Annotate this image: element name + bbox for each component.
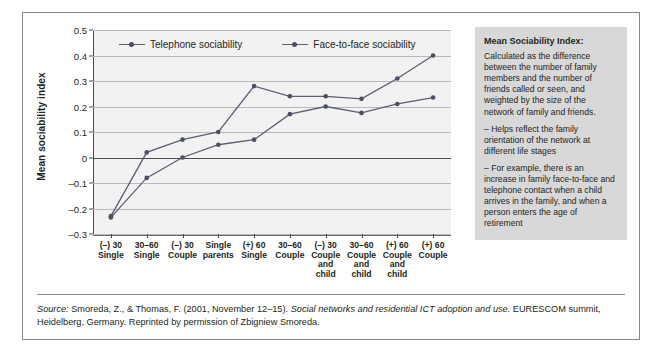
data-point[interactable] [144,176,149,181]
x-tick-label: 30–60 Single [134,241,160,260]
data-point[interactable] [216,142,221,147]
x-tick-label: (+) 60 Couple [419,241,448,260]
data-point[interactable] [252,137,257,142]
x-tick-mark [218,234,219,238]
y-tick-label: –0.2 [69,203,88,214]
side-note-paragraph: Calculated as the difference between the… [484,51,618,118]
data-point[interactable] [109,214,114,219]
side-note-paragraph: – For example, there is an increase in f… [484,163,618,230]
x-tick-mark [326,234,327,238]
y-tick-label: 0.1 [74,127,87,138]
x-tick-mark [111,234,112,238]
plot-area: 0.50.40.30.20.10–0.1–0.2–0.3 (–) 30 Sing… [93,30,451,234]
legend-label: Face-to-face sociability [313,39,415,50]
y-tick-label: 0 [82,152,87,163]
source-label: Source: [37,304,69,314]
x-tick-label: (–) 30 Couple and child [311,241,340,279]
series-line [111,98,433,218]
data-point[interactable] [359,97,364,102]
data-point[interactable] [252,84,257,89]
chart-panel: Mean sociability index 0.50.40.30.20.10–… [23,13,469,289]
x-tick-label: (–) 30 Couple [168,241,197,260]
x-tick-mark [183,234,184,238]
data-point[interactable] [323,104,328,109]
x-tick-mark [290,234,291,238]
x-tick-label: 30–60 Couple [275,241,304,260]
source-divider [37,294,625,295]
y-tick-label: 0.4 [74,50,87,61]
side-note-paragraph: – Helps reflect the family orientation o… [484,124,618,157]
data-point[interactable] [180,137,185,142]
series-layer [93,30,451,234]
x-tick-mark [433,234,434,238]
data-point[interactable] [288,94,293,99]
y-axis-title: Mean sociability index [36,52,47,202]
y-tick-label: –0.1 [69,178,88,189]
series-line [111,56,433,217]
x-tick-mark [147,234,148,238]
legend-marker-icon [119,41,145,49]
y-tick-label: –0.3 [69,229,88,240]
x-tick-label: (+) 60 Single [241,241,267,260]
x-tick-mark [254,234,255,238]
x-tick-mark [362,234,363,238]
x-tick-label: Single parents [203,241,234,260]
x-tick-label: (–) 30 Single [98,241,124,260]
legend-item[interactable]: Face-to-face sociability [282,39,415,50]
y-tick-label: 0.5 [74,25,87,36]
data-point[interactable] [216,130,221,135]
x-tick-label: (+) 60 Couple and child [383,241,412,279]
data-point[interactable] [359,111,364,116]
legend-marker-icon [282,41,308,49]
data-point[interactable] [144,150,149,155]
data-point[interactable] [288,112,293,117]
figure-container: Mean sociability index 0.50.40.30.20.10–… [22,12,640,340]
source-citation: Source: Smoreda, Z., & Thomas, F. (2001,… [37,303,627,329]
source-work-title: Social networks and residential ICT adop… [291,304,511,314]
data-point[interactable] [431,53,436,58]
data-point[interactable] [395,102,400,107]
data-point[interactable] [395,76,400,81]
y-tick-label: 0.2 [74,101,87,112]
data-point[interactable] [323,94,328,99]
data-point[interactable] [431,95,436,100]
data-point[interactable] [180,155,185,160]
x-tick-label: 30–60 Couple and child [347,241,376,279]
x-tick-mark [397,234,398,238]
legend-label: Telephone sociability [150,39,242,50]
side-note-heading: Mean Sociability Index: [484,36,618,47]
legend-item[interactable]: Telephone sociability [119,39,242,50]
y-tick-label: 0.3 [74,76,87,87]
side-note-body: Calculated as the difference between the… [484,51,618,229]
side-note: Mean Sociability Index: Calculated as th… [475,27,627,240]
chart-legend: Telephone sociabilityFace-to-face sociab… [119,39,416,50]
source-authors: Smoreda, Z., & Thomas, F. (2001, Novembe… [69,304,291,314]
